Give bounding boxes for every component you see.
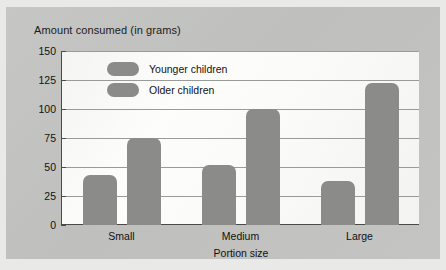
y-axis-tick-mark xyxy=(61,80,66,81)
y-axis-tick-mark xyxy=(61,225,66,226)
legend-label: Younger children xyxy=(149,63,227,75)
y-axis-ticks: 0255075100125150 xyxy=(20,51,56,226)
y-axis-tick-label: 150 xyxy=(22,45,56,57)
legend-swatch xyxy=(107,62,139,76)
gridline xyxy=(62,51,419,52)
y-axis-tick-label: 50 xyxy=(22,161,56,173)
bar xyxy=(83,175,117,225)
y-axis-tick-mark xyxy=(61,167,66,168)
legend-item: Older children xyxy=(107,81,257,99)
chart-title: Amount consumed (in grams) xyxy=(34,24,181,36)
y-axis-tick-mark xyxy=(61,51,66,52)
x-axis-tick-label: Large xyxy=(346,230,373,242)
y-axis-tick-mark xyxy=(61,138,66,139)
x-axis-tick-label: Small xyxy=(108,230,134,242)
legend-swatch xyxy=(107,83,139,97)
bar xyxy=(365,83,399,225)
y-axis-tick-mark xyxy=(61,109,66,110)
y-axis-tick-label: 0 xyxy=(22,219,56,231)
bar xyxy=(127,138,161,225)
y-axis-tick-label: 100 xyxy=(22,103,56,115)
y-axis-tick-mark xyxy=(61,196,66,197)
bar xyxy=(246,109,280,225)
legend-item: Younger children xyxy=(107,60,257,78)
bar xyxy=(321,181,355,225)
legend-label: Older children xyxy=(149,84,214,96)
y-axis-tick-label: 75 xyxy=(22,132,56,144)
x-axis-tick-label: Medium xyxy=(222,230,259,242)
y-axis-tick-label: 25 xyxy=(22,190,56,202)
x-axis-title: Portion size xyxy=(214,247,269,259)
y-axis-tick-label: 125 xyxy=(22,74,56,86)
chart-figure: Amount consumed (in grams) 0255075100125… xyxy=(0,0,446,270)
bar xyxy=(202,165,236,225)
chart-panel: Amount consumed (in grams) 0255075100125… xyxy=(6,7,440,259)
chart-legend: Younger childrenOlder children xyxy=(107,60,257,102)
